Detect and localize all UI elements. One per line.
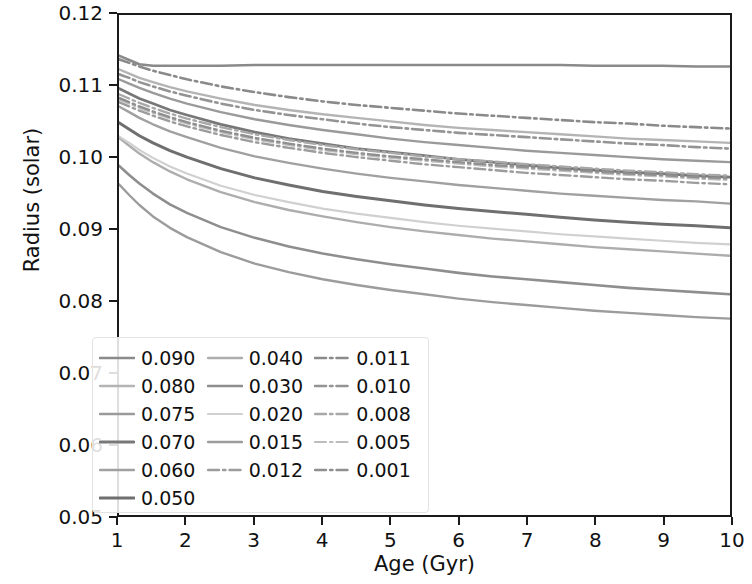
legend-item[interactable]: 0.001 <box>314 456 422 484</box>
legend-label: 0.005 <box>356 433 410 452</box>
x-tick-mark <box>663 517 665 525</box>
legend-label: 0.015 <box>249 433 303 452</box>
x-tick-label: 2 <box>155 530 215 550</box>
legend-label: 0.075 <box>141 405 195 424</box>
legend-label: 0.070 <box>141 433 195 452</box>
legend-item[interactable]: 0.030 <box>207 372 315 400</box>
legend-item[interactable]: 0.040 <box>207 344 315 372</box>
legend-line-swatch <box>314 380 350 392</box>
legend-line-swatch <box>99 408 135 420</box>
legend-column: 0.0110.0100.0080.0050.001 <box>314 344 422 484</box>
legend-column: 0.0400.0300.0200.0150.012 <box>207 344 315 484</box>
x-tick-mark <box>458 517 460 525</box>
legend-item[interactable]: 0.060 <box>99 456 207 484</box>
legend-line-swatch <box>207 464 243 476</box>
x-tick-label: 4 <box>292 530 352 550</box>
x-tick-mark <box>321 517 323 525</box>
legend-line-swatch <box>99 436 135 448</box>
x-axis-label: Age (Gyr) <box>117 552 732 576</box>
legend-item[interactable]: 0.050 <box>99 484 207 512</box>
legend-label: 0.012 <box>249 461 303 480</box>
legend-line-swatch <box>314 408 350 420</box>
x-tick-label: 1 <box>87 530 147 550</box>
legend-line-swatch <box>207 436 243 448</box>
legend-item[interactable]: 0.015 <box>207 428 315 456</box>
legend: 0.0900.0800.0750.0700.0600.0500.0400.030… <box>92 337 429 513</box>
chart-root: 0.050.060.070.080.090.100.110.12 1234567… <box>0 0 752 584</box>
legend-line-swatch <box>99 464 135 476</box>
x-tick-mark <box>116 517 118 525</box>
legend-label: 0.090 <box>141 349 195 368</box>
legend-label: 0.008 <box>356 405 410 424</box>
x-tick-label: 10 <box>702 530 752 550</box>
x-tick-label: 7 <box>497 530 557 550</box>
x-tick-mark <box>731 517 733 525</box>
legend-label: 0.080 <box>141 377 195 396</box>
x-tick-label: 3 <box>224 530 284 550</box>
legend-line-swatch <box>99 352 135 364</box>
legend-item[interactable]: 0.080 <box>99 372 207 400</box>
legend-item[interactable]: 0.005 <box>314 428 422 456</box>
legend-label: 0.050 <box>141 489 195 508</box>
legend-line-swatch <box>314 464 350 476</box>
x-tick-mark <box>184 517 186 525</box>
legend-item[interactable]: 0.075 <box>99 400 207 428</box>
legend-line-swatch <box>207 408 243 420</box>
legend-label: 0.030 <box>249 377 303 396</box>
x-tick-mark <box>253 517 255 525</box>
legend-item[interactable]: 0.012 <box>207 456 315 484</box>
legend-line-swatch <box>99 380 135 392</box>
legend-item[interactable]: 0.090 <box>99 344 207 372</box>
legend-item[interactable]: 0.010 <box>314 372 422 400</box>
x-tick-mark <box>594 517 596 525</box>
legend-column: 0.0900.0800.0750.0700.0600.050 <box>99 344 207 512</box>
legend-label: 0.011 <box>356 349 410 368</box>
legend-label: 0.040 <box>249 349 303 368</box>
legend-label: 0.010 <box>356 377 410 396</box>
x-tick-mark <box>526 517 528 525</box>
y-axis-label: Radius (solar) <box>20 90 44 310</box>
x-tick-label: 6 <box>429 530 489 550</box>
legend-line-swatch <box>207 380 243 392</box>
legend-line-swatch <box>207 352 243 364</box>
legend-item[interactable]: 0.070 <box>99 428 207 456</box>
legend-item[interactable]: 0.008 <box>314 400 422 428</box>
x-tick-label: 8 <box>565 530 625 550</box>
legend-label: 0.060 <box>141 461 195 480</box>
legend-label: 0.001 <box>356 461 410 480</box>
legend-line-swatch <box>314 352 350 364</box>
x-tick-label: 5 <box>360 530 420 550</box>
legend-label: 0.020 <box>249 405 303 424</box>
legend-line-swatch <box>99 492 135 504</box>
legend-item[interactable]: 0.020 <box>207 400 315 428</box>
legend-item[interactable]: 0.011 <box>314 344 422 372</box>
legend-line-swatch <box>314 436 350 448</box>
x-tick-mark <box>389 517 391 525</box>
x-tick-label: 9 <box>634 530 694 550</box>
